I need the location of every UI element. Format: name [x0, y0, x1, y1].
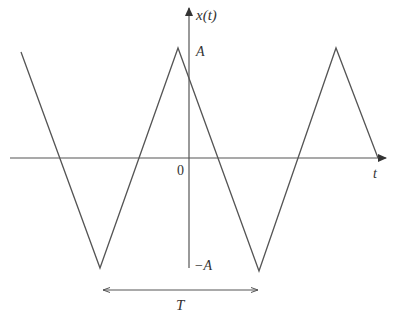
max-level-label: A — [195, 44, 205, 59]
y-axis-label: x(t) — [195, 7, 217, 24]
origin-label: 0 — [177, 163, 184, 178]
triangle-waveform — [21, 48, 378, 271]
x-axis-label: t — [373, 166, 378, 181]
period-label: T — [176, 297, 186, 313]
min-level-label: −A — [194, 258, 212, 273]
triangle-wave-diagram: x(t) A 0 t −A T — [0, 0, 395, 319]
